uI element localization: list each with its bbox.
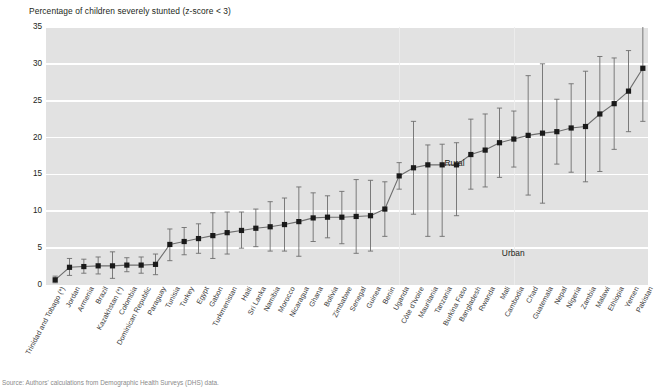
data-point [139,263,144,268]
data-point [425,162,430,167]
data-point [540,131,545,136]
data-point [468,152,473,157]
error-bar [640,27,645,121]
data-point [282,222,287,227]
data-point [182,239,187,244]
chart-title: Percentage of children severely stunted … [29,6,231,16]
data-point [483,148,488,153]
y-axis-tick-label: 30 [18,59,42,68]
data-point [583,124,588,129]
data-point [67,265,72,270]
y-axis-tick-label: 25 [18,96,42,105]
error-bar [454,143,459,216]
x-axis-tick-label: Trinidad and Tobago (*) [24,285,68,356]
y-axis-tick-label: 20 [18,133,42,142]
chart-root: Percentage of children severely stunted … [0,0,668,388]
data-point [311,215,316,220]
data-point [569,125,574,130]
data-point [612,101,617,106]
x-axis-tick-label-text: Trinidad and Tobago (*) [24,285,68,356]
data-point [296,219,301,224]
data-point [196,236,201,241]
data-point [124,263,129,268]
source-note: Source: Authors' calculations from Demog… [2,379,219,386]
y-axis-tick-label: 10 [18,206,42,215]
data-point [210,233,215,238]
data-point [526,133,531,138]
data-point [96,263,101,268]
trend-line [55,68,643,280]
error-bar [425,145,430,236]
data-point [110,263,115,268]
data-point [81,264,86,269]
data-point [597,111,602,116]
data-series [46,27,648,285]
y-axis-tick-label: 15 [18,169,42,178]
data-point [640,66,645,71]
annotation-rural: Rural [445,158,465,168]
data-point [511,136,516,141]
data-point [397,173,402,178]
data-point [497,140,502,145]
data-point [354,214,359,219]
y-axis-tick-label: 35 [18,22,42,31]
data-point [382,206,387,211]
data-point [626,89,631,94]
data-point [153,262,158,267]
data-point [53,277,58,282]
data-point [239,228,244,233]
annotation-urban: Urban [502,248,525,258]
data-point [225,230,230,235]
data-point [411,165,416,170]
data-point [339,215,344,220]
data-point [167,242,172,247]
x-axis-labels: Trinidad and Tobago (*)JordanArmeniaBraz… [0,285,668,380]
data-point [368,213,373,218]
data-point [268,224,273,229]
data-point [554,129,559,134]
data-point [253,226,258,231]
y-axis-tick-label: 5 [18,243,42,252]
data-point [325,215,330,220]
